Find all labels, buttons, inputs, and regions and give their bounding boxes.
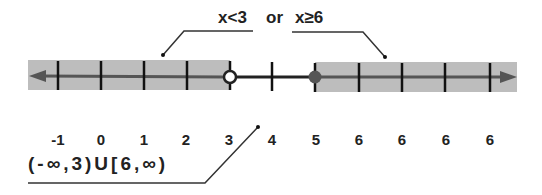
tick-label: 6 <box>355 131 363 148</box>
left-inequality-label: x<3 <box>218 8 247 28</box>
number-line-diagram: x<3 or x≥6 -1 0 1 2 3 4 5 6 6 6 6 (-∞,3)… <box>0 0 542 195</box>
tick-label: 0 <box>97 131 105 148</box>
tick-label: 6 <box>486 131 494 148</box>
open-circle-endpoint <box>224 71 236 83</box>
tick-label: 4 <box>268 131 276 148</box>
tick-label: 5 <box>312 131 320 148</box>
tick-label: 6 <box>398 131 406 148</box>
tick-label: 3 <box>225 131 233 148</box>
closed-circle-endpoint <box>309 71 322 84</box>
right-callout-dot <box>383 55 387 59</box>
left-callout-leader <box>163 31 253 55</box>
right-callout-leader <box>292 32 385 57</box>
or-connector-label: or <box>266 8 283 28</box>
tick-label: 6 <box>442 131 450 148</box>
right-inequality-label: x≥6 <box>295 8 323 28</box>
tick-label: 2 <box>182 131 190 148</box>
tick-label: 1 <box>140 131 148 148</box>
left-ray-line <box>40 76 226 77</box>
tick-label: -1 <box>51 131 64 148</box>
interval-callout-dot <box>256 125 260 129</box>
interval-notation-label: (-∞,3)U[6,∞) <box>28 153 168 175</box>
left-callout-dot <box>161 53 165 57</box>
